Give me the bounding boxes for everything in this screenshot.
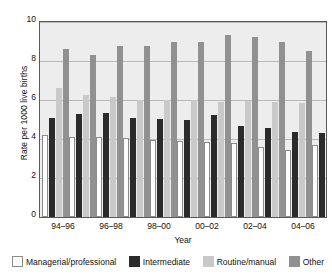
bar-intermediate[interactable] <box>49 118 55 217</box>
bar-routine[interactable] <box>245 101 251 217</box>
x-tick-label: 02–04 <box>243 221 267 231</box>
bar-intermediate[interactable] <box>76 114 82 217</box>
bar-routine[interactable] <box>164 100 170 217</box>
bar-group <box>177 22 204 217</box>
bar-routine[interactable] <box>83 95 89 217</box>
legend-swatch-routine <box>203 256 214 267</box>
bar-group <box>285 22 312 217</box>
bar-routine[interactable] <box>299 103 305 217</box>
bar-group <box>231 22 258 217</box>
x-tick-label: 00–02 <box>195 221 219 231</box>
bar-group <box>204 22 231 217</box>
bar-managerial[interactable] <box>204 142 210 217</box>
bar-managerial[interactable] <box>177 141 183 217</box>
x-tick-label: 96–98 <box>99 221 123 231</box>
bars-layer <box>40 22 326 217</box>
x-tick-label: 04–06 <box>291 221 315 231</box>
bar-managerial[interactable] <box>231 143 237 217</box>
legend-swatch-intermediate <box>129 256 140 267</box>
y-tick-label: 6 <box>18 93 36 101</box>
bar-group <box>96 22 123 217</box>
x-axis-tick-labels: 94–9696–9898–0000–0202–0404–06 <box>39 221 327 231</box>
legend-label: Intermediate <box>143 257 190 267</box>
bar-managerial[interactable] <box>69 137 75 217</box>
legend-label: Other <box>303 257 324 267</box>
plot-area <box>39 21 327 218</box>
bar-intermediate[interactable] <box>130 118 136 217</box>
x-axis-title: Year <box>39 235 327 245</box>
legend-item[interactable]: Routine/manual <box>203 256 277 267</box>
bar-routine[interactable] <box>110 97 116 217</box>
bar-group <box>258 22 285 217</box>
bar-routine[interactable] <box>137 100 143 217</box>
chart-legend: Managerial/professionalIntermediateRouti… <box>12 256 324 267</box>
bar-group <box>312 22 327 217</box>
bar-managerial[interactable] <box>96 137 102 217</box>
bar-managerial[interactable] <box>123 138 129 217</box>
bar-managerial[interactable] <box>312 145 318 217</box>
x-tick-label: 94–96 <box>51 221 75 231</box>
y-tick-label: 10 <box>18 15 36 23</box>
bar-intermediate[interactable] <box>238 126 244 217</box>
bar-intermediate[interactable] <box>292 132 298 217</box>
bar-routine[interactable] <box>56 88 62 217</box>
bar-group <box>42 22 69 217</box>
x-tick-label: 98–00 <box>147 221 171 231</box>
y-tick-label: 8 <box>18 54 36 62</box>
y-tick-label: 0 <box>18 210 36 218</box>
y-tick-label: 2 <box>18 171 36 179</box>
bar-managerial[interactable] <box>42 135 48 217</box>
bar-intermediate[interactable] <box>157 119 163 217</box>
bar-intermediate[interactable] <box>184 120 190 217</box>
bar-intermediate[interactable] <box>211 115 217 217</box>
bar-group <box>150 22 177 217</box>
legend-label: Routine/manual <box>217 257 277 267</box>
legend-label: Managerial/professional <box>26 257 116 267</box>
bar-routine[interactable] <box>326 105 327 217</box>
bar-routine[interactable] <box>272 102 278 217</box>
legend-swatch-other <box>289 256 300 267</box>
y-tick-label: 4 <box>18 132 36 140</box>
bar-managerial[interactable] <box>258 147 264 217</box>
bar-managerial[interactable] <box>150 140 156 217</box>
bar-routine[interactable] <box>218 102 224 217</box>
bar-routine[interactable] <box>191 100 197 217</box>
legend-item[interactable]: Managerial/professional <box>12 256 116 267</box>
bar-chart-figure: Rate per 1000 live births 0246810 94–969… <box>0 0 332 277</box>
y-axis-tick-labels: 0246810 <box>18 18 36 218</box>
bar-intermediate[interactable] <box>103 113 109 217</box>
bar-group <box>69 22 96 217</box>
bar-group <box>123 22 150 217</box>
legend-item[interactable]: Other <box>289 256 324 267</box>
bar-managerial[interactable] <box>285 150 291 217</box>
bar-intermediate[interactable] <box>319 133 325 217</box>
bar-intermediate[interactable] <box>265 128 271 217</box>
legend-swatch-managerial <box>12 256 23 267</box>
legend-item[interactable]: Intermediate <box>129 256 190 267</box>
